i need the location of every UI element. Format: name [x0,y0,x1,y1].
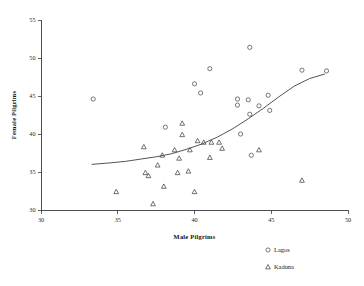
data-point-circle [246,98,250,102]
data-point-triangle [114,189,119,193]
trend-curve-layer [92,74,325,164]
data-point-circle [268,108,272,112]
data-point-triangle [217,140,222,144]
y-tick-label: 30 [29,206,35,213]
data-point-circle [257,104,261,108]
legend-item-kaduna[interactable]: Kaduna [266,263,294,270]
y-tick-label: 50 [29,54,35,61]
y-tick-label: 55 [29,16,35,23]
y-tick-label: 40 [29,130,35,137]
legend-label: Lagos [274,246,290,253]
data-point-circle [91,97,95,101]
data-point-triangle [186,169,191,173]
data-point-triangle [172,147,177,151]
data-point-circle [300,68,304,72]
scatter-chart-figure: 3035404550303540455055 Male PilgrimsFema… [0,0,364,286]
y-tick-label: 35 [29,168,35,175]
data-point-circle [235,103,239,107]
axis-frame [41,20,348,210]
x-tick-label: 35 [115,216,121,223]
data-point-triangle [220,146,225,150]
x-tick-label: 45 [268,216,274,223]
data-point-triangle [151,201,156,205]
trend-curve [92,74,325,164]
data-points-layer [91,45,329,206]
legend-marker-triangle-icon [266,265,271,269]
data-point-circle [248,45,252,49]
data-point-triangle [175,170,180,174]
plot-canvas: 3035404550303540455055 Male PilgrimsFema… [0,0,364,286]
data-point-triangle [177,156,182,160]
data-point-circle [163,125,167,129]
legend-item-lagos[interactable]: Lagos [266,246,290,253]
data-point-circle [324,69,328,73]
data-point-triangle [195,138,200,142]
data-point-circle [199,91,203,95]
legend: LagosKaduna [266,246,294,270]
data-point-circle [238,132,242,136]
data-point-triangle [141,144,146,148]
data-point-triangle [192,189,197,193]
data-point-triangle [257,147,262,151]
data-point-circle [208,67,212,71]
data-point-circle [248,112,252,116]
axes-layer: 3035404550303540455055 [29,16,351,222]
y-axis-title: Female Pilgrims [10,91,17,140]
data-point-triangle [155,163,160,167]
data-point-triangle [143,170,148,174]
data-point-circle [249,153,253,157]
data-point-triangle [161,184,166,188]
data-point-circle [266,93,270,97]
data-point-circle [235,97,239,101]
x-tick-label: 50 [345,216,351,223]
legend-label: Kaduna [274,263,294,270]
data-point-triangle [146,173,151,177]
data-point-triangle [300,178,305,182]
x-axis-title: Male Pilgrims [174,233,216,240]
legend-marker-circle-icon [266,248,270,252]
data-point-triangle [188,147,193,151]
y-tick-label: 45 [29,92,35,99]
series-kaduna [114,121,304,206]
data-point-triangle [180,121,185,125]
data-point-circle [192,82,196,86]
data-point-triangle [180,132,185,136]
x-tick-label: 30 [38,216,44,223]
x-tick-label: 40 [191,216,197,223]
data-point-triangle [207,155,212,159]
